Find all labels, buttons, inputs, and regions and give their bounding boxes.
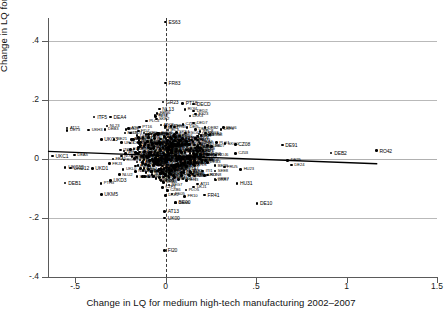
fit-line — [0, 0, 442, 330]
scatter-plot-figure: .4 .2 0 -.2 -.4 -.50.511.5 Change in LQ … — [0, 0, 442, 330]
